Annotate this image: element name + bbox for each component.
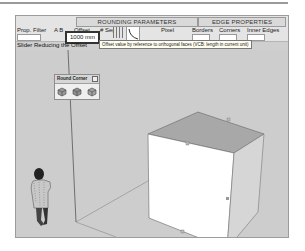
panel-icon-row <box>55 84 99 97</box>
ab-label: A B <box>54 27 63 34</box>
prop-filter-field[interactable] <box>17 34 41 41</box>
round-corner-icon[interactable] <box>57 87 67 97</box>
sketchup-window: ROUNDING PARAMETERS EDGE PROPERTIES Prop… <box>15 15 289 238</box>
segments-bars-icon[interactable] <box>113 27 123 38</box>
window-top-shadow <box>0 2 288 4</box>
borders-label: Borders <box>192 27 213 34</box>
edge-midpoint-handle <box>186 142 189 145</box>
edge-midpoint-handle <box>181 230 184 233</box>
edge-midpoint-handle <box>227 118 230 121</box>
scale-figure <box>31 168 50 226</box>
prop-filter-button[interactable]: Prop. Filter <box>17 27 46 34</box>
offset-tooltip: Offset value by reference to orthogonal … <box>99 40 252 49</box>
inner-edges-label: Inner Edges <box>247 27 279 34</box>
round-corner-options-toolbar: ROUNDING PARAMETERS EDGE PROPERTIES Prop… <box>16 16 288 42</box>
round-corner-toolbar-panel: Round Corner <box>54 74 100 100</box>
curve-profile-icon[interactable] <box>126 26 140 41</box>
green-axis-line <box>76 222 116 237</box>
pixel-label: Pixel <box>161 27 174 34</box>
panel-title-text: Round Corner <box>57 76 87 81</box>
face-center-handle <box>226 197 229 200</box>
bevel-corner-icon[interactable] <box>87 87 97 97</box>
panel-title: Round Corner <box>55 75 99 84</box>
status-hint: Slider Reducing the Offset <box>16 41 87 49</box>
edge-properties-header: EDGE PROPERTIES <box>198 17 286 27</box>
corners-label: Corners <box>219 27 240 34</box>
close-icon[interactable] <box>92 76 98 82</box>
sharp-corner-icon[interactable] <box>72 87 82 97</box>
